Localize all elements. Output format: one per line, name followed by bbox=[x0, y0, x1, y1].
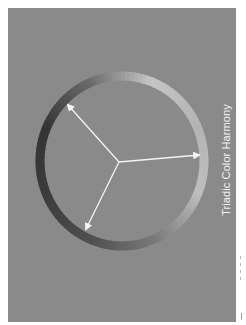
arrow-lower-left bbox=[86, 162, 119, 229]
margin-mark bbox=[240, 277, 241, 280]
triad-arrows bbox=[68, 105, 199, 229]
arrow-right bbox=[119, 155, 199, 162]
margin-mark bbox=[240, 256, 241, 259]
ring-segment bbox=[146, 80, 151, 82]
color-wheel-ring bbox=[40, 76, 204, 246]
margin-mark bbox=[240, 270, 241, 273]
arrow-upper-left bbox=[68, 105, 119, 162]
margin-tick bbox=[241, 313, 242, 320]
page: Triadic Color Harmony bbox=[0, 0, 246, 325]
diagram-title: Triadic Color Harmony bbox=[220, 104, 232, 216]
margin-marks bbox=[240, 256, 242, 286]
triadic-diagram bbox=[0, 0, 246, 325]
margin-mark bbox=[240, 263, 241, 266]
